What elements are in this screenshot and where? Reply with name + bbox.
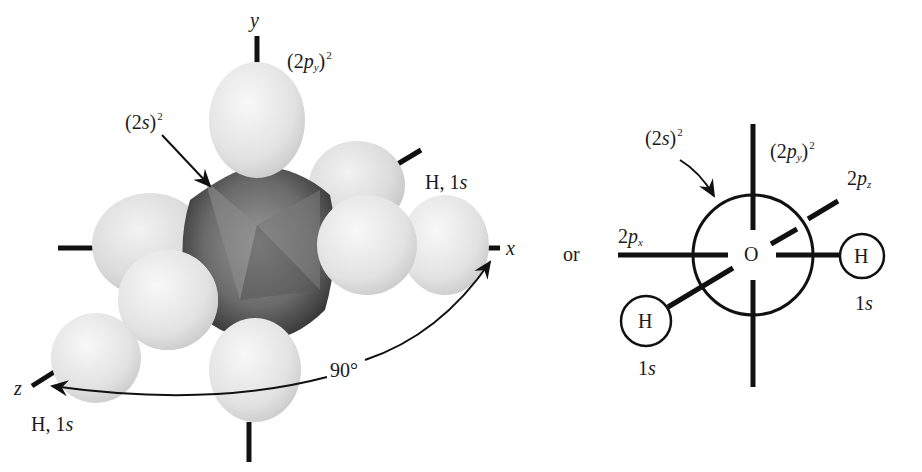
2px-label: 2px — [618, 226, 643, 248]
2pz-axis-inner — [771, 229, 797, 244]
lobe-front-right — [317, 195, 417, 295]
oh-bond-left — [668, 268, 733, 307]
lobe-front-left-overlap — [118, 250, 218, 350]
x-axis-label: x — [506, 238, 515, 258]
oxygen-symbol: O — [744, 244, 758, 264]
hydrogen-left-symbol: H — [638, 311, 652, 331]
2s-pointer-arrow — [162, 135, 210, 186]
2s-pointer-arrow-right — [680, 160, 714, 196]
2s-label-left: (2s)2 — [125, 111, 163, 132]
2py-label-left: (2py)2 — [287, 50, 332, 73]
angle-label: 90° — [327, 360, 361, 380]
h-upper-axis-tick — [396, 150, 421, 165]
2py-lobe-bottom — [209, 318, 301, 422]
hydrogen-right-symbol: H — [854, 246, 868, 266]
h-1s-lower-label: H, 1s — [31, 414, 73, 434]
space-filling-model — [0, 0, 922, 472]
y-axis-label: y — [250, 10, 259, 30]
or-connector: or — [563, 244, 580, 264]
2py-label-right: (2py)2 — [770, 140, 815, 163]
orbital-figure: y x z (2py)2 (2s)2 H, 1s H, 1s 90° or O … — [0, 0, 922, 472]
h-1s-upper-label: H, 1s — [425, 172, 467, 192]
2pz-label: 2pz — [847, 168, 871, 190]
hydrogen-left-orbital: 1s — [638, 358, 656, 378]
2s-label-right: (2s)2 — [645, 127, 683, 148]
2pz-axis-outer — [808, 201, 838, 219]
z-axis-label: z — [14, 378, 22, 398]
2py-lobe-top — [209, 62, 305, 178]
hydrogen-right-orbital: 1s — [855, 293, 873, 313]
